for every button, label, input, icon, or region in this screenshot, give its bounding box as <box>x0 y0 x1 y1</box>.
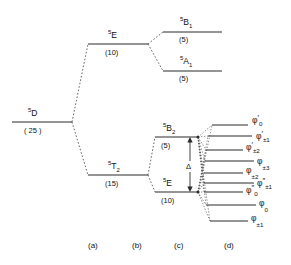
phi-sub-7: 0 <box>254 190 258 197</box>
degeneracy-5b1: (5) <box>179 35 189 44</box>
term-letter-5d: D <box>31 108 37 118</box>
phi-sub-2: ±1 <box>263 136 270 143</box>
sublevels-group: φ′0 φ′±1 φ′±2 φ±3 φ±2 φ″±1 <box>204 113 273 228</box>
term-label-5e: 5E <box>108 29 117 40</box>
term-subscript-5a1: 1 <box>189 62 193 68</box>
degeneracy-5e: (10) <box>105 48 119 57</box>
level-5e-low-group: 5E (10) <box>155 177 198 205</box>
level-5b1-group: 5B1 (5) <box>163 16 222 44</box>
term-label-5t2: 5T2 <box>108 160 121 173</box>
sublevel-label-9: φ±1 <box>251 213 264 228</box>
diagram-canvas: 5D ( 25 ) 5E (10) 5T2 (15) 5B1 (5) <box>0 0 291 265</box>
fan-elow-to-phi-dprime-pm1 <box>198 183 204 192</box>
sublevel-label-3: φ′±2 <box>246 140 260 154</box>
term-label-5b1: 5B1 <box>180 16 193 29</box>
sublevel-label-2: φ′±1 <box>256 129 270 143</box>
delta-label: Δ <box>186 162 191 171</box>
term-label-5e-low: 5E <box>163 177 172 188</box>
term-subscript-5b2: 2 <box>172 129 176 135</box>
connector-d-to-e <box>72 44 88 122</box>
fan-elow-to-phi-prime-pm1 <box>198 136 208 192</box>
phi-sub-6: ±1 <box>265 183 272 190</box>
connector-e-to-b1 <box>148 32 163 44</box>
sublevel-label-4: φ±3 <box>257 156 270 171</box>
phi-sub-3: ±2 <box>253 147 260 154</box>
degeneracy-5a1: (5) <box>179 74 189 83</box>
column-label-a: (a) <box>88 241 98 250</box>
column-label-b: (b) <box>132 241 142 250</box>
sublevel-label-1: φ′0 <box>252 113 263 127</box>
phi-sub-1: 0 <box>259 120 263 127</box>
fan-b2-to-phi-prime-pm1 <box>198 136 208 137</box>
delta-arrow-head-up <box>187 137 192 143</box>
term-letter-5e-low: E <box>166 178 172 188</box>
term-letter-5e: E <box>111 30 117 40</box>
sublevel-label-8: φ0 <box>259 198 269 213</box>
term-label-5d: 5D <box>28 107 37 118</box>
term-label-5b2: 5B2 <box>163 122 176 135</box>
level-5e-group: 5E (10) <box>88 29 148 57</box>
degeneracy-5t2: (15) <box>105 179 119 188</box>
connectors-b-to-c <box>148 32 163 192</box>
level-5d-group: 5D ( 25 ) <box>12 107 72 135</box>
column-label-c: (c) <box>174 241 184 250</box>
connector-e-to-a1 <box>148 44 163 71</box>
column-label-d: (d) <box>224 241 234 250</box>
level-5a1-group: 5A1 (5) <box>163 55 222 83</box>
delta-arrow-head-down <box>187 187 192 193</box>
degeneracy-5d: ( 25 ) <box>24 126 42 135</box>
connector-t2-to-elow <box>148 175 155 192</box>
phi-sub-8: 0 <box>265 206 269 213</box>
term-label-5a1: 5A1 <box>180 55 193 68</box>
connectors-a-to-b <box>72 44 88 175</box>
phi-sub-9: ±1 <box>257 221 264 228</box>
term-subscript-5b1: 1 <box>189 23 193 29</box>
level-5b2-group: 5B2 (5) <box>155 122 198 150</box>
sublevel-label-6: φ″±1 <box>257 176 273 190</box>
degeneracy-5e-low: (10) <box>161 196 175 205</box>
energy-level-diagram: 5D ( 25 ) 5E (10) 5T2 (15) 5B1 (5) <box>0 0 291 265</box>
term-subscript-5t2: 2 <box>117 167 121 173</box>
level-5t2-group: 5T2 (15) <box>88 160 148 188</box>
phi-sub-4: ±3 <box>263 164 270 171</box>
connector-t2-to-b2 <box>148 137 155 175</box>
degeneracy-5b2: (5) <box>161 141 171 150</box>
column-labels-group: (a) (b) (c) (d) <box>88 241 234 250</box>
delta-arrow-group: Δ <box>186 137 193 192</box>
connector-d-to-t2 <box>72 122 88 175</box>
